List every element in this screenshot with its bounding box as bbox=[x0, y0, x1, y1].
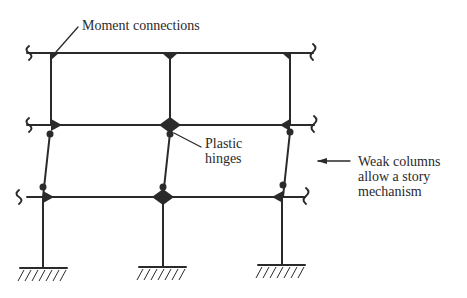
plastic-hinge-icon bbox=[280, 182, 287, 189]
moment-connection-icon bbox=[282, 53, 290, 60]
break-symbol-icon bbox=[17, 190, 22, 204]
plastic-hinges-line1: Plastic bbox=[205, 136, 242, 151]
weak-columns-line3: mechanism bbox=[358, 184, 440, 199]
moment-connection-icon bbox=[162, 53, 178, 60]
leader-line bbox=[174, 133, 201, 147]
moment-connection-icon bbox=[51, 119, 62, 131]
plastic-hinge-icon bbox=[160, 184, 167, 191]
moment-connection-icon bbox=[43, 191, 54, 203]
moment-connection-icon bbox=[51, 53, 59, 60]
weak-columns-line1: Weak columns bbox=[358, 154, 440, 169]
moment-connection-icon bbox=[152, 189, 174, 205]
ground-hatch-icon bbox=[18, 267, 304, 281]
arrow-left-icon bbox=[317, 158, 327, 164]
moment-frame-diagram: Moment connections Plastic hinges Weak c… bbox=[0, 0, 467, 298]
moment-connections-label: Moment connections bbox=[82, 18, 200, 33]
plastic-hinge-icon bbox=[167, 131, 174, 138]
leader-line bbox=[56, 27, 78, 52]
weak-columns-line2: allow a story bbox=[358, 169, 440, 184]
plastic-hinge-icon bbox=[47, 131, 54, 138]
plastic-hinges-line2: hinges bbox=[205, 151, 242, 166]
plastic-hinges-label: Plastic hinges bbox=[205, 136, 242, 166]
weak-columns-label: Weak columns allow a story mechanism bbox=[358, 154, 440, 199]
moment-connection-icon bbox=[272, 191, 283, 203]
plastic-hinge-icon bbox=[40, 184, 47, 191]
plastic-hinge-icon bbox=[287, 129, 294, 136]
